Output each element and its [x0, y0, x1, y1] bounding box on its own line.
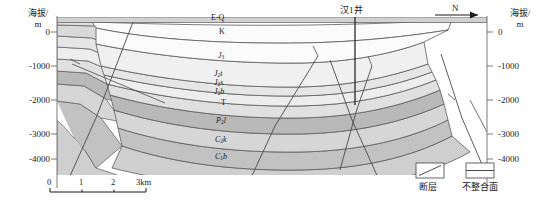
fault-far-east	[470, 100, 487, 132]
strat-label-EQ: E-Q	[211, 14, 224, 22]
north-label: N	[452, 4, 459, 13]
right-axis-ticks	[487, 32, 493, 159]
scalebar-icon	[50, 188, 146, 192]
strat-label-J2b: J2b	[214, 88, 224, 97]
well-label-han1: 汉1井	[340, 5, 363, 15]
strat-label-P2l: P2l	[216, 117, 226, 126]
legend-unconformity-symbol	[466, 163, 494, 178]
scalebar-tick-3km: 3km	[136, 178, 151, 187]
strat-label-C2k: C2k	[215, 136, 227, 145]
strat-label-K: K	[219, 28, 225, 36]
layer-EQ-cap	[57, 17, 487, 23]
strat-label-C1b: C1b	[215, 153, 227, 162]
strat-label-J3: J3	[218, 52, 224, 61]
scalebar-tick-0: 0	[47, 178, 51, 187]
strat-label-T: T	[221, 99, 226, 107]
legend-label-fault: 断层	[419, 182, 437, 192]
cross-section-figure: 海拔/ m 0 -1000 -2000 -3000 -4000 海拔/ m 0 …	[0, 0, 544, 205]
scalebar-tick-2: 2	[111, 178, 115, 187]
legend-fault-symbol	[416, 163, 444, 178]
scalebar-tick-1: 1	[79, 178, 83, 187]
legend-label-unconformity: 不整合面	[462, 182, 498, 192]
left-axis-ticks	[51, 32, 57, 159]
section-drawing	[0, 0, 544, 205]
